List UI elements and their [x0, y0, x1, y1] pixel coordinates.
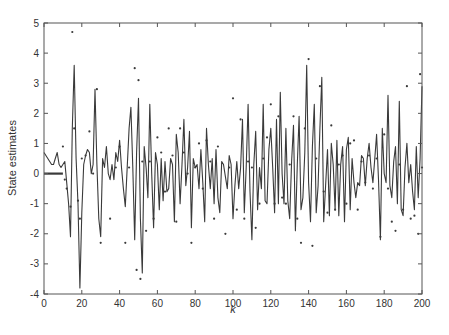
measurement-point [213, 218, 215, 220]
measurement-point [360, 160, 362, 162]
measurement-point [304, 127, 306, 129]
measurement-point [100, 242, 102, 244]
measurement-point [247, 160, 249, 162]
measurement-point [308, 58, 310, 60]
measurement-point [277, 115, 279, 117]
measurement-point [349, 142, 351, 144]
measurement-point [134, 67, 136, 69]
measurement-point [300, 242, 302, 244]
measurement-point [342, 154, 344, 156]
y-tick-label: 0 [33, 168, 39, 179]
measurement-point [338, 163, 340, 165]
measurement-point [262, 157, 264, 159]
measurement-point [281, 197, 283, 199]
x-tick-label: 140 [300, 298, 317, 309]
x-tick-label: 40 [114, 298, 126, 309]
measurement-point [183, 151, 185, 153]
measurement-point [92, 173, 94, 175]
measurement-point [319, 85, 321, 87]
x-tick-label: 160 [338, 298, 355, 309]
measurement-point [236, 209, 238, 211]
y-tick-label: -3 [30, 258, 39, 269]
measurement-point [205, 139, 207, 141]
measurement-point [209, 160, 211, 162]
y-tick-label: 2 [33, 108, 39, 119]
measurement-point [379, 236, 381, 238]
measurement-point [296, 218, 298, 220]
measurement-point [179, 127, 181, 129]
measurement-point [368, 154, 370, 156]
measurement-point [289, 163, 291, 165]
measurement-point [323, 191, 325, 193]
y-tick-label: -2 [30, 228, 39, 239]
measurement-point [240, 118, 242, 120]
measurement-point [315, 157, 317, 159]
measurement-point [345, 203, 347, 205]
x-tick-label: 80 [190, 298, 202, 309]
measurement-point [171, 154, 173, 156]
y-tick-label: -1 [30, 198, 39, 209]
measurement-point [136, 269, 138, 271]
y-tick-label: 3 [33, 78, 39, 89]
measurement-point [419, 73, 421, 75]
measurement-point [164, 191, 166, 193]
measurement-point [334, 209, 336, 211]
x-tick-label: 180 [376, 298, 393, 309]
measurement-point [217, 145, 219, 147]
measurement-point [243, 218, 245, 220]
y-tick-label: 5 [33, 18, 39, 29]
measurement-point [149, 160, 151, 162]
measurement-point [109, 218, 111, 220]
measurement-point [62, 145, 64, 147]
measurement-point [224, 233, 226, 235]
x-tick-label: 200 [414, 298, 431, 309]
x-tick-label: 0 [41, 298, 47, 309]
measurement-point [73, 127, 75, 129]
measurement-point [69, 206, 71, 208]
measurement-point [311, 245, 313, 247]
x-tick-label: 60 [152, 298, 164, 309]
measurement-point [141, 160, 143, 162]
measurement-point [391, 221, 393, 223]
measurement-point [88, 130, 90, 132]
measurement-point [64, 179, 66, 181]
measurement-point [383, 133, 385, 135]
measurement-point [175, 221, 177, 223]
measurement-point [402, 209, 404, 211]
measurement-point [77, 200, 79, 202]
x-tick-label: 20 [76, 298, 88, 309]
measurement-point [79, 218, 81, 220]
measurement-point [202, 188, 204, 190]
measurement-point [115, 166, 117, 168]
measurement-point [398, 163, 400, 165]
measurement-point [326, 212, 328, 214]
x-tick-label: 120 [262, 298, 279, 309]
measurement-point [255, 227, 257, 229]
measurement-point [387, 188, 389, 190]
measurement-point [139, 278, 141, 280]
measurement-point [71, 31, 73, 33]
measurement-point [137, 79, 139, 81]
y-axis-label: State estimates [6, 120, 18, 196]
measurement-point [119, 145, 121, 147]
measurement-point [364, 182, 366, 184]
measurement-point [85, 154, 87, 156]
measurement-point [353, 139, 355, 141]
measurement-point [410, 218, 412, 220]
measurement-point [394, 230, 396, 232]
measurement-point [156, 136, 158, 138]
measurement-point [266, 136, 268, 138]
measurement-point [232, 97, 234, 99]
figure: 020406080100120140160180200-4-3-2-101234… [0, 0, 449, 335]
measurement-point [145, 230, 147, 232]
measurement-point [285, 203, 287, 205]
measurement-point [228, 166, 230, 168]
x-axis-label: k [230, 303, 236, 315]
measurement-point [187, 173, 189, 175]
measurement-point [270, 103, 272, 105]
measurement-point [198, 142, 200, 144]
measurement-point [357, 209, 359, 211]
measurement-point [66, 188, 68, 190]
measurement-point [413, 215, 415, 217]
plot-area [44, 23, 422, 294]
